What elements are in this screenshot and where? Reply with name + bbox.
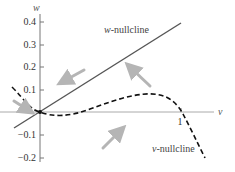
flow-arrow-up-left-icon	[131, 68, 150, 86]
x-tick-label: 1	[178, 116, 183, 127]
flow-arrow-up-right-icon	[103, 131, 120, 148]
y-tick-label: −0.1	[18, 129, 36, 140]
y-tick-label: 0.1	[24, 84, 37, 95]
phase-plane-diagram: w v 0.4 0.3 0.2 0.1 −0.1 −0.2 1 w-nullcl…	[0, 0, 235, 172]
y-tick-label: 0.3	[24, 39, 37, 50]
x-axis	[0, 108, 214, 112]
w-nullcline-label: w-nullcline	[104, 24, 150, 35]
y-tick-label: 0.2	[24, 61, 37, 72]
flow-arrow-down-left-icon	[64, 70, 84, 81]
y-tick-label: −0.2	[18, 152, 36, 163]
y-axis	[40, 14, 44, 162]
x-axis-label: v	[218, 106, 223, 117]
y-axis-label: w	[33, 2, 40, 13]
fixed-point-marker	[38, 110, 42, 114]
y-tick-label: 0.4	[24, 16, 37, 27]
v-nullcline-label: v-nullcline	[152, 143, 195, 154]
